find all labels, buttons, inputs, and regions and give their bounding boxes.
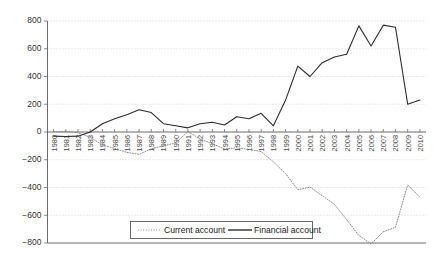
x-tick-label: 1981 (62, 135, 71, 151)
x-tick-label: 2006 (367, 135, 376, 151)
line-chart: 8006004002000−200−400−600−800 1980198119… (0, 0, 434, 261)
gridlines-group (48, 21, 427, 215)
y-tick-label: 200 (27, 99, 41, 109)
x-tick-label: 2010 (416, 135, 425, 151)
x-tick-label: 1984 (98, 135, 107, 151)
y-tick-label: 0 (37, 126, 42, 136)
x-tick-label: 1980 (50, 135, 59, 151)
x-tick-label: 2003 (330, 135, 339, 151)
x-tick-label: 2008 (391, 135, 400, 151)
legend-label-financial-account: Financial account (254, 225, 321, 235)
x-axis-tick-labels: 1980198119821983198419851986198719881989… (50, 135, 425, 151)
x-tick-label: 2007 (379, 135, 388, 151)
y-tick-label: 600 (27, 43, 41, 53)
x-tick-label: 1983 (86, 135, 95, 151)
y-tick-label: −400 (22, 182, 41, 192)
x-tick-label: 2001 (306, 135, 315, 151)
y-tick-label: −200 (22, 154, 41, 164)
x-tick-label: 1999 (282, 135, 291, 151)
legend-label-current-account: Current account (164, 225, 226, 235)
y-tick-label: 800 (27, 15, 41, 25)
x-tick-label: 2002 (318, 135, 327, 151)
x-tick-label: 1982 (74, 135, 83, 151)
y-tick-marks-group (44, 21, 48, 243)
series-line-financial-account (54, 25, 420, 136)
x-tick-label: 1989 (159, 135, 168, 151)
x-tick-label: 1997 (257, 135, 266, 151)
y-tick-label: −600 (22, 210, 41, 220)
x-tick-label: 2005 (355, 135, 364, 151)
y-tick-label: 400 (27, 71, 41, 81)
x-tick-label: 1987 (135, 135, 144, 151)
x-tick-label: 1991 (184, 135, 193, 151)
x-tick-label: 1998 (269, 135, 278, 151)
chart-container: 8006004002000−200−400−600−800 1980198119… (0, 0, 434, 261)
x-tick-label: 1986 (123, 135, 132, 151)
x-tick-label: 2000 (294, 135, 303, 151)
y-tick-label: −800 (22, 237, 41, 247)
chart-legend[interactable]: Current account Financial account (131, 222, 322, 239)
x-tick-label: 1995 (233, 135, 242, 151)
x-tick-label: 2004 (343, 135, 352, 151)
x-tick-label: 1994 (221, 135, 230, 151)
y-axis-tick-labels: 8006004002000−200−400−600−800 (22, 15, 41, 247)
x-tick-label: 2009 (404, 135, 413, 151)
